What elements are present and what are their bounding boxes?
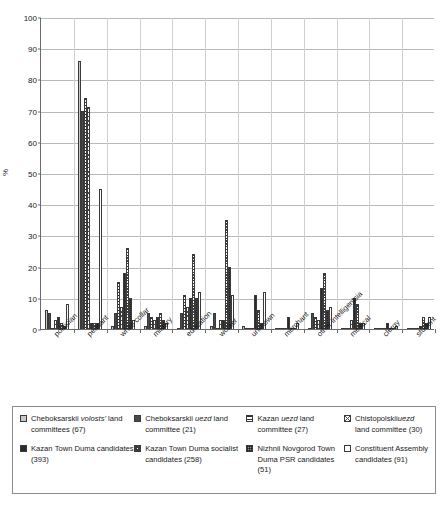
y-axis-tick-label: 70 <box>28 107 37 116</box>
y-axis-tick-label: 30 <box>28 232 37 241</box>
legend-item[interactable]: Chistopolskiiuezd land committee (30) <box>344 414 430 435</box>
legend-item[interactable]: Cheboksarskii volosts' land committees (… <box>20 414 134 435</box>
y-axis-tick-mark <box>38 330 41 331</box>
y-axis-tick-label: 50 <box>28 170 37 179</box>
legend-label: Kazan Town Duma socialist candidates (25… <box>145 444 246 465</box>
legend-swatch-icon <box>246 445 253 452</box>
legend-item[interactable]: Kazan Town Duma socialist candidates (25… <box>134 444 246 476</box>
y-axis-tick-label: 20 <box>28 263 37 272</box>
bar-group <box>107 18 140 329</box>
legend-swatch-icon <box>344 415 351 422</box>
legend-label: Kazan uezd land committee (27) <box>257 414 344 435</box>
legend-row-bottom: Kazan Town Duma candidates (393)Kazan To… <box>20 444 430 476</box>
bar-group <box>238 18 271 329</box>
y-axis-tick-label: 10 <box>28 294 37 303</box>
bar-group <box>271 18 304 329</box>
legend-label: Nizhnii Novgorod Town Duma PSR candidate… <box>257 444 344 476</box>
legend-swatch-icon <box>246 415 253 422</box>
bar-group <box>172 18 205 329</box>
legend-swatch-icon <box>134 415 141 422</box>
bar-chart: % 0102030405060708090100 politicianpeasa… <box>0 0 448 390</box>
chart-legend: Cheboksarskii volosts' land committees (… <box>12 406 436 494</box>
bar <box>99 189 102 329</box>
legend-swatch-icon <box>134 445 141 452</box>
legend-label: Constituent Assembly candidates (91) <box>355 444 430 465</box>
legend-item[interactable]: Constituent Assembly candidates (91) <box>344 444 430 476</box>
bar-group <box>369 18 402 329</box>
y-axis-tick-label: 60 <box>28 138 37 147</box>
legend-row-top: Cheboksarskii volosts' land committees (… <box>20 414 430 435</box>
bar-group <box>337 18 370 329</box>
y-axis-tick-label: 0 <box>33 326 37 335</box>
legend-item[interactable]: Cheboksarskii uezd land committee (21) <box>134 414 246 435</box>
y-axis-tick-label: 90 <box>28 45 37 54</box>
legend-item[interactable]: Kazan Town Duma candidates (393) <box>20 444 134 476</box>
y-axis-tick-label: 80 <box>28 76 37 85</box>
bar <box>213 313 216 329</box>
plot-area: 0102030405060708090100 <box>40 18 434 330</box>
bar <box>48 313 51 329</box>
legend-label: Kazan Town Duma candidates (393) <box>31 444 134 465</box>
bar-group <box>304 18 337 329</box>
chart-page: % 0102030405060708090100 politicianpeasa… <box>0 0 448 508</box>
y-axis-title: % <box>1 169 10 176</box>
x-axis-labels: politicianpeasantwhite collarmilitaryedu… <box>40 332 434 390</box>
y-axis-tick-label: 100 <box>24 14 37 23</box>
bar-group <box>41 18 74 329</box>
legend-label: Chistopolskiiuezd land committee (30) <box>355 414 430 435</box>
legend-label: Cheboksarskii volosts' land committees (… <box>31 414 134 435</box>
x-axis-tick <box>435 329 436 333</box>
y-axis-tick-label: 40 <box>28 201 37 210</box>
legend-label: Cheboksarskii uezd land committee (21) <box>145 414 246 435</box>
legend-item[interactable]: Kazan uezd land committee (27) <box>246 414 344 435</box>
legend-swatch-icon <box>20 415 27 422</box>
bar-group <box>402 18 435 329</box>
legend-item[interactable]: Nizhnii Novgorod Town Duma PSR candidate… <box>246 444 344 476</box>
legend-swatch-icon <box>344 445 351 452</box>
bar-group <box>74 18 107 329</box>
bar <box>87 107 90 329</box>
bar-group <box>140 18 173 329</box>
legend-swatch-icon <box>20 445 27 452</box>
bar-group <box>205 18 238 329</box>
